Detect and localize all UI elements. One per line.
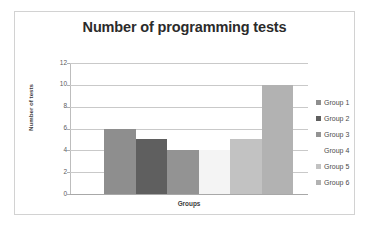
plot-area — [70, 63, 308, 194]
y-axis-tickmark — [67, 63, 70, 64]
bar — [199, 150, 231, 194]
y-tick-label: 0 — [45, 191, 67, 198]
y-axis-tickmark — [67, 194, 70, 195]
legend-label: Group 3 — [324, 131, 349, 138]
chart-title: Number of programming tests — [15, 19, 354, 35]
legend-item[interactable]: Group 4 — [316, 142, 371, 158]
y-axis-tick-labels: 121086420 — [45, 53, 67, 205]
legend-swatch-icon — [316, 148, 321, 153]
bar — [167, 150, 199, 194]
chart-frame: Number of programming tests Number of te… — [14, 11, 355, 215]
legend-swatch-icon — [316, 132, 321, 137]
bar — [104, 129, 136, 195]
chart-legend: Group 1Group 2Group 3Group 4Group 5Group… — [316, 94, 371, 190]
legend-item[interactable]: Group 2 — [316, 110, 371, 126]
axis-baseline — [70, 194, 308, 195]
y-tick-label: 6 — [45, 125, 67, 132]
y-tick-label: 4 — [45, 147, 67, 154]
legend-label: Group 2 — [324, 115, 349, 122]
legend-swatch-icon — [316, 164, 321, 169]
y-tick-label: 12 — [45, 60, 67, 67]
legend-label: Group 4 — [324, 147, 349, 154]
legend-label: Group 1 — [324, 99, 349, 106]
y-axis-tickmark — [67, 107, 70, 108]
legend-item[interactable]: Group 3 — [316, 126, 371, 142]
legend-swatch-icon — [316, 116, 321, 121]
bars-group — [71, 63, 308, 194]
bar — [262, 85, 294, 194]
x-axis-title: Groups — [70, 200, 308, 207]
y-axis-tickmark — [67, 85, 70, 86]
legend-label: Group 5 — [324, 163, 349, 170]
legend-swatch-icon — [316, 180, 321, 185]
legend-item[interactable]: Group 5 — [316, 158, 371, 174]
y-tick-label: 2 — [45, 169, 67, 176]
y-tick-label: 8 — [45, 103, 67, 110]
legend-item[interactable]: Group 1 — [316, 94, 371, 110]
bar — [230, 139, 262, 194]
y-tick-label: 10 — [45, 81, 67, 88]
legend-label: Group 6 — [324, 179, 349, 186]
y-axis-tickmark — [67, 150, 70, 151]
legend-swatch-icon — [316, 100, 321, 105]
legend-item[interactable]: Group 6 — [316, 174, 371, 190]
y-axis-tickmark — [67, 172, 70, 173]
bar — [136, 139, 168, 194]
y-axis-tickmark — [67, 129, 70, 130]
y-axis-title: Number of tests — [27, 73, 34, 143]
